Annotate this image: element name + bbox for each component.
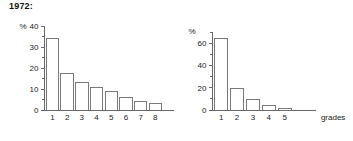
x-tick-label: 8 — [153, 113, 158, 122]
bar — [105, 91, 118, 110]
bar — [278, 109, 292, 110]
bar — [90, 88, 103, 110]
bar — [134, 102, 147, 110]
x-tick-label: 4 — [267, 113, 272, 122]
x-tick-label: 2 — [65, 113, 70, 122]
bar — [262, 106, 276, 110]
bar — [214, 39, 228, 110]
figure-container: 1972: 01020304012345678% 020406012345%gr… — [0, 0, 353, 141]
y-tick-label: 60 — [198, 39, 207, 48]
x-axis-caption: grades — [321, 113, 345, 122]
x-tick-label: 1 — [219, 113, 224, 122]
bar-chart-right-svg: 020406012345%grades — [178, 24, 350, 134]
bar — [149, 104, 162, 110]
x-tick-label: 5 — [283, 113, 288, 122]
y-tick-label: 20 — [198, 84, 207, 93]
bar — [230, 89, 244, 110]
y-tick-label: 0 — [34, 106, 39, 115]
y-tick-label: 0 — [202, 106, 207, 115]
bar-chart-right: 020406012345%grades — [178, 24, 350, 134]
bar — [76, 83, 89, 110]
bar — [61, 73, 74, 110]
y-axis-unit-label: % — [19, 22, 26, 31]
x-tick-label: 6 — [124, 113, 129, 122]
x-tick-label: 7 — [138, 113, 143, 122]
bar — [46, 39, 59, 110]
x-tick-label: 1 — [50, 113, 55, 122]
y-tick-label: 20 — [30, 64, 39, 73]
y-tick-label: 10 — [30, 85, 39, 94]
bar — [120, 97, 133, 110]
bar-chart-left-svg: 01020304012345678% — [14, 18, 182, 134]
y-tick-label: 30 — [30, 43, 39, 52]
x-tick-label: 2 — [235, 113, 240, 122]
x-tick-label: 3 — [80, 113, 85, 122]
x-tick-label: 3 — [251, 113, 256, 122]
bar — [246, 100, 260, 110]
y-axis-unit-label: % — [188, 27, 195, 36]
y-tick-label: 40 — [198, 61, 207, 70]
x-tick-label: 4 — [94, 113, 99, 122]
bar-chart-left: 01020304012345678% — [14, 18, 182, 134]
y-tick-label: 40 — [30, 22, 39, 31]
x-tick-label: 5 — [109, 113, 114, 122]
page-title: 1972: — [9, 1, 33, 11]
